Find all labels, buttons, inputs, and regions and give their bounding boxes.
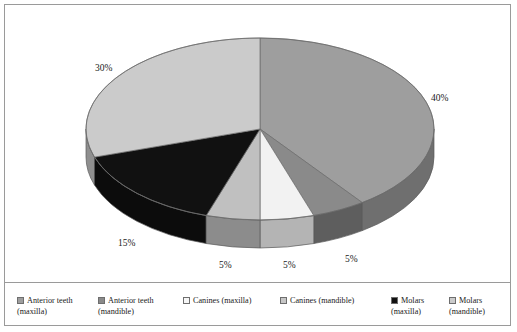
legend-swatch-anterior-teeth-maxilla [17,297,24,304]
legend-swatch-anterior-teeth-mandible [98,297,105,304]
legend-label-canines-mandible: Canines (mandible) [290,296,354,305]
slice-label-5-anterior-mandible: 5% [219,260,232,270]
legend-label-anterior-teeth-mandible: Anterior teeth (mandible) [98,296,154,316]
chart-frame: 40% 30% 15% 5% 5% 5% Anterior teeth (max… [4,4,511,326]
slice-label-5-canines-maxilla: 5% [283,260,296,270]
legend-swatch-canines-maxilla [183,297,190,304]
slice-label-15: 15% [118,238,135,248]
legend-swatch-canines-mandible [280,297,287,304]
chart-legend: Anterior teeth (maxilla) Anterior teeth … [5,283,510,326]
legend-label-canines-maxilla: Canines (maxilla) [193,296,251,305]
legend-item-molars-maxilla[interactable]: Molars (maxilla) [391,296,439,317]
legend-item-anterior-teeth-mandible[interactable]: Anterior teeth (mandible) [98,296,180,317]
slice-label-5-canines-mandible: 5% [345,254,358,264]
legend-item-canines-mandible[interactable]: Canines (mandible) [280,296,375,307]
legend-item-anterior-teeth-maxilla[interactable]: Anterior teeth (maxilla) [17,296,95,317]
legend-swatch-molars-maxilla [391,297,398,304]
legend-label-anterior-teeth-maxilla: Anterior teeth (maxilla) [17,296,73,316]
slice-label-30: 30% [95,63,112,73]
legend-swatch-molars-mandible [449,297,456,304]
legend-item-molars-mandible[interactable]: Molars (mandible) [449,296,504,317]
legend-item-canines-maxilla[interactable]: Canines (maxilla) [183,296,273,307]
pie-chart-area: 40% 30% 15% 5% 5% 5% [5,5,510,282]
slice-label-40: 40% [431,93,448,103]
pie-chart-3d [5,5,510,282]
